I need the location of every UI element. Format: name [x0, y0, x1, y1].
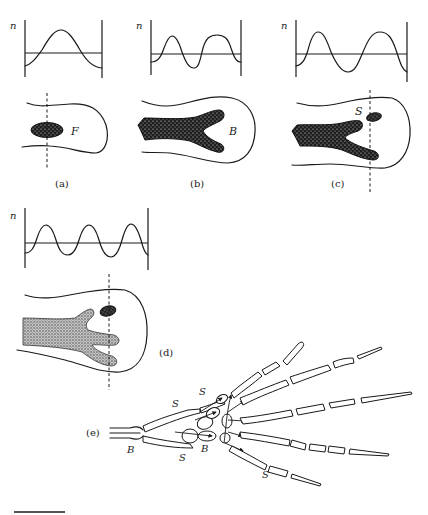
tissue-label-s: S — [355, 105, 363, 118]
panel-label-d: (d) — [159, 347, 173, 358]
label-b: B — [126, 444, 134, 455]
limb-development-figure: n F (a) n B (b) — [0, 0, 428, 515]
digit-3 — [240, 392, 412, 424]
phalanx — [361, 392, 412, 403]
y-shaped-cartilage — [138, 110, 224, 152]
three-branch-cartilage — [23, 309, 119, 366]
panel-label-b: (b) — [190, 178, 204, 189]
metacarpal — [240, 432, 290, 446]
panel-a: n F (a) — [10, 20, 107, 189]
phalanx — [268, 466, 288, 477]
phalanx — [296, 404, 325, 415]
phalanx — [283, 342, 304, 365]
axis-label-n: n — [10, 210, 16, 221]
phalanx — [329, 399, 355, 408]
new-condensation — [99, 304, 117, 318]
metacarpal — [240, 410, 293, 424]
panel-label-c: (c) — [331, 178, 345, 189]
carpal-bone — [198, 431, 216, 441]
phalanx — [357, 347, 382, 359]
panel-a-limb: F (a) — [22, 93, 107, 189]
panel-label-a: (a) — [55, 178, 69, 189]
phalanx — [290, 365, 331, 384]
panel-d: n (d) — [10, 208, 173, 390]
phalanx — [262, 362, 280, 375]
panel-c-graph: n — [281, 20, 407, 82]
panel-e-skeleton: (e) — [86, 342, 412, 486]
cartilage-element — [31, 123, 63, 138]
waveform-curve — [25, 224, 148, 257]
label-b: B — [200, 443, 208, 454]
phalanx — [333, 358, 354, 368]
label-s: S — [199, 386, 206, 397]
digit-5 — [229, 446, 321, 486]
axis-label-n: n — [281, 20, 287, 31]
proximal-bone-line — [110, 427, 143, 430]
phalanx — [309, 444, 326, 452]
tissue-label-f: F — [70, 125, 79, 138]
digit-4 — [240, 432, 389, 456]
phalanx — [290, 440, 306, 450]
axis-label-n: n — [10, 20, 16, 31]
panel-c: n S (c) — [281, 20, 410, 192]
phalanx — [349, 449, 389, 456]
label-s: S — [172, 398, 179, 409]
panel-a-graph: n — [10, 20, 102, 78]
panel-b-graph: n — [136, 20, 241, 76]
radius-bone — [143, 409, 200, 432]
phalanx — [291, 474, 321, 486]
panel-b: n B (b) — [136, 20, 255, 189]
waveform-curve — [25, 30, 102, 68]
label-s: S — [179, 452, 186, 463]
phalanx — [328, 446, 345, 454]
waveform-curve — [151, 35, 241, 68]
new-condensation — [366, 112, 382, 123]
panel-d-limb: (d) — [17, 274, 173, 390]
metacarpal — [229, 446, 267, 470]
waveform-curve — [296, 32, 407, 72]
proximal-bone-line — [110, 436, 143, 439]
panel-label-e: (e) — [86, 427, 100, 438]
panel-c-limb: S (c) — [292, 90, 410, 192]
panel-d-graph: n — [10, 208, 148, 270]
axis-label-n: n — [136, 20, 142, 31]
carpal-bone — [182, 429, 198, 443]
panel-b-limb: B (b) — [138, 97, 255, 189]
label-s: S — [262, 469, 269, 480]
y-shaped-cartilage — [292, 121, 378, 160]
tissue-label-b: B — [228, 125, 237, 138]
